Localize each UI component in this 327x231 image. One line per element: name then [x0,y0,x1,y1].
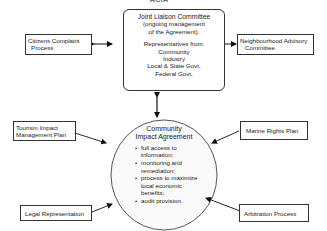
cia-bullet: process to maximizelocal economicbenefit… [135,174,217,197]
community-impact-agreement: Community Impact Agreement full access t… [111,119,217,229]
jlc-rep: Local & State Govt. [124,62,224,69]
neighbourhood-line1: Neighbourhood Advisory [240,37,311,44]
neighbourhood-advisory-box: Neighbourhood Advisory Committee [237,34,314,55]
marine-label: Marine Rights Plan [246,127,302,134]
jlc-subtitle-1: (ongoing management [124,20,224,27]
tourism-line2: Management Plan [16,131,73,138]
legal-representation-box: Legal Representation [20,205,92,221]
citizens-line2: Process [28,44,89,51]
cia-bullet-list: full access toinformation; monitoring an… [135,144,217,205]
jlc-rep: Federal Govt. [124,70,224,77]
cia-bullet: monitoring andremediation; [135,159,217,174]
marine-rights-box: Marine Rights Plan [240,121,308,140]
joint-liaison-committee-box: Joint Liaison Committee (ongoing managem… [123,9,225,91]
citizens-complaint-box: Citizens Complaint Process [25,34,92,55]
arrow-legal-cia [92,204,112,212]
jlc-subtitle-2: of the Agreement). [124,28,224,35]
neighbourhood-line2: Committee [240,44,311,51]
citizens-line1: Citizens Complaint [28,37,89,44]
arbitration-label: Arbitration Process [244,210,304,217]
jlc-rep: Community [124,48,224,55]
cia-title-1: Community [111,125,217,133]
arrow-tourism-cia [75,133,106,143]
jlc-reps-heading: Representatives from: [124,40,224,47]
arbitration-process-box: Arbitration Process [239,204,309,222]
tourism-line1: Tourism Impact [16,124,73,131]
tourism-impact-box: Tourism Impact Management Plan [13,121,76,141]
cia-title-2: Impact Agreement [111,133,217,141]
legal-label: Legal Representation [25,210,87,217]
cia-bullet: audit provision. [135,197,217,205]
cia-bullet: full access toinformation; [135,144,217,159]
jlc-title: Joint Liaison Committee [124,13,224,20]
jlc-rep: Industry [124,55,224,62]
